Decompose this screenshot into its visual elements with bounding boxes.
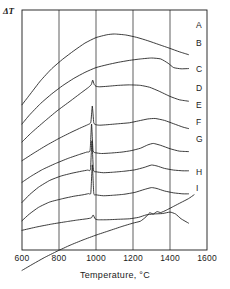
curve-label-d: D (196, 83, 202, 93)
curve-label-e: E (196, 100, 202, 110)
dta-curve-c (22, 80, 189, 142)
curve-label-c: C (196, 64, 202, 74)
y-axis-label: ΔT (3, 6, 14, 16)
dta-chart-figure: ΔT Temperature, °C 600800100012001400160… (0, 0, 230, 289)
x-tick-label: 600 (15, 253, 30, 263)
curve-label-f: F (196, 117, 201, 127)
x-tick-label: 1200 (123, 253, 143, 263)
plot-frame (22, 10, 207, 250)
x-tick-label: 800 (52, 253, 67, 263)
x-tick-label: 1400 (160, 253, 180, 263)
curve-lines (22, 34, 194, 270)
x-tick-label: 1000 (86, 253, 106, 263)
dta-curve-h (22, 212, 189, 230)
curve-label-a: A (196, 20, 202, 30)
curve-label-h: H (196, 167, 202, 177)
curve-label-b: B (196, 38, 202, 48)
x-axis-label: Temperature, °C (0, 270, 230, 280)
curve-label-g: G (196, 134, 203, 144)
axis-frame (22, 10, 207, 250)
x-tick-label: 1600 (197, 253, 217, 263)
dta-curve-g (22, 165, 189, 221)
curve-label-i: I (196, 183, 199, 193)
dta-curve-a (22, 34, 189, 105)
dta-curve-d (22, 106, 189, 161)
dta-curve-f (22, 141, 189, 203)
dta-curve-e (22, 124, 189, 182)
dta-curve-b (22, 58, 189, 124)
